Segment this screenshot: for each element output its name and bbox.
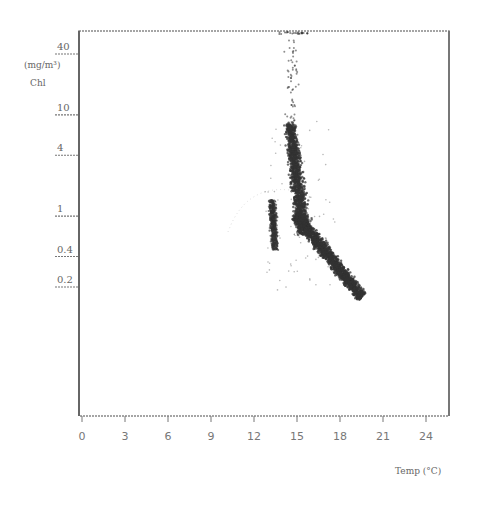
x-tick-label: 12 (247, 430, 261, 443)
y-tick-label: 40 (57, 41, 70, 52)
x-tick-label: 3 (122, 430, 129, 443)
x-tick-label: 15 (290, 430, 304, 443)
y-axis-label: Chl (30, 78, 46, 88)
y-tick-label: 10 (57, 102, 70, 113)
x-tick-label: 6 (165, 430, 172, 443)
x-tick-label: 21 (376, 430, 390, 443)
x-axis-ticks: 03691215182124 (79, 416, 434, 443)
y-axis-ticks: 4010410.40.2 (55, 41, 79, 287)
data-points (228, 31, 366, 301)
scatter-chart: 4010410.40.2 03691215182124 (0, 0, 485, 505)
x-tick-label: 18 (333, 430, 347, 443)
y-tick-label: 1 (57, 203, 63, 214)
x-tick-label: 0 (79, 430, 86, 443)
y-axis-unit-label: (mg/m³) (24, 60, 61, 70)
x-axis-label: Temp (°C) (395, 466, 441, 476)
plot-frame (79, 31, 449, 416)
y-tick-label: 4 (57, 142, 63, 153)
y-tick-label: 0.4 (57, 244, 73, 255)
y-tick-label: 0.2 (57, 274, 73, 285)
x-tick-label: 24 (419, 430, 433, 443)
x-tick-label: 9 (208, 430, 215, 443)
